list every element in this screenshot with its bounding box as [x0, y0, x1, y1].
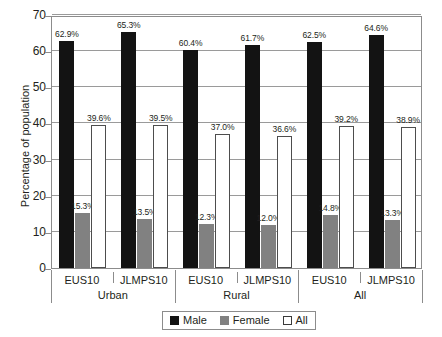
y-tick-label: 10 [6, 225, 46, 239]
bar-value-label: 61.7% [235, 33, 269, 43]
legend-label: All [296, 314, 308, 326]
y-tick-label: 70 [6, 8, 46, 22]
bar-value-label: 65.3% [112, 20, 146, 30]
chart-legend: MaleFemaleAll [162, 311, 316, 330]
bar-all-jlmps10-5 [401, 127, 416, 268]
legend-entry-female: Female [220, 314, 270, 326]
y-tick-label: 0 [6, 261, 46, 275]
bar-value-label: 38.9% [391, 115, 425, 125]
bar-male-eus10-4 [307, 42, 322, 268]
legend-swatch-all-icon [283, 316, 292, 325]
bar-female-eus10-0 [75, 213, 90, 268]
x-group-label-urban: Urban [63, 289, 163, 301]
bar-female-eus10-4 [323, 215, 338, 268]
bar-female-jlmps10-3 [261, 225, 276, 268]
bar-male-jlmps10-3 [245, 45, 260, 268]
x-minor-separator [237, 272, 238, 283]
bar-male-eus10-0 [59, 41, 74, 268]
bar-value-label: 39.5% [144, 113, 178, 123]
gridline [52, 195, 421, 196]
bar-male-eus10-2 [183, 50, 198, 268]
bar-all-eus10-4 [339, 126, 354, 268]
bar-female-eus10-2 [199, 224, 214, 268]
x-minor-separator [360, 272, 361, 283]
bar-value-label: 39.6% [82, 113, 116, 123]
x-group-separator [298, 270, 299, 303]
y-tick-label: 60 [6, 44, 46, 58]
legend-swatch-female-icon [220, 316, 229, 325]
x-group-label-rural: Rural [187, 289, 287, 301]
legend-label: Male [183, 314, 207, 326]
legend-entry-male: Male [170, 314, 207, 326]
x-group-separator [422, 270, 423, 303]
legend-entry-all: All [283, 314, 308, 326]
bar-all-eus10-2 [215, 134, 230, 268]
x-minor-separator [113, 272, 114, 283]
gridline [52, 231, 421, 232]
bar-value-label: 62.5% [297, 30, 331, 40]
gridline [52, 159, 421, 160]
bar-all-jlmps10-3 [277, 136, 292, 268]
bar-value-label: 37.0% [206, 122, 240, 132]
x-group-separator [175, 270, 176, 303]
bar-all-eus10-0 [91, 125, 106, 268]
gridline [52, 86, 421, 87]
bar-male-jlmps10-1 [121, 32, 136, 268]
gridline [52, 50, 421, 51]
bar-male-jlmps10-5 [369, 35, 384, 268]
x-tick-label-5: JLMPS10 [351, 274, 431, 286]
bar-value-label: 36.6% [267, 124, 301, 134]
x-group-separator [51, 270, 52, 303]
bar-chart: Percentage of population 010203040506070… [0, 0, 442, 337]
y-tick-label: 40 [6, 116, 46, 130]
y-tick-label: 50 [6, 80, 46, 94]
bar-all-jlmps10-1 [153, 125, 168, 268]
bar-value-label: 60.4% [174, 38, 208, 48]
legend-swatch-male-icon [170, 316, 179, 325]
bar-female-jlmps10-1 [137, 219, 152, 268]
x-group-label-all: All [310, 289, 410, 301]
gridline [52, 14, 421, 15]
y-tick-label: 20 [6, 189, 46, 203]
bar-value-label: 64.6% [359, 23, 393, 33]
legend-label: Female [233, 314, 270, 326]
plot-area: 62.9%15.3%39.6%65.3%13.5%39.5%60.4%12.3%… [51, 16, 422, 269]
bar-female-jlmps10-5 [385, 220, 400, 268]
bar-value-label: 39.2% [329, 114, 363, 124]
y-tick-label: 30 [6, 153, 46, 167]
bar-value-label: 62.9% [50, 29, 84, 39]
